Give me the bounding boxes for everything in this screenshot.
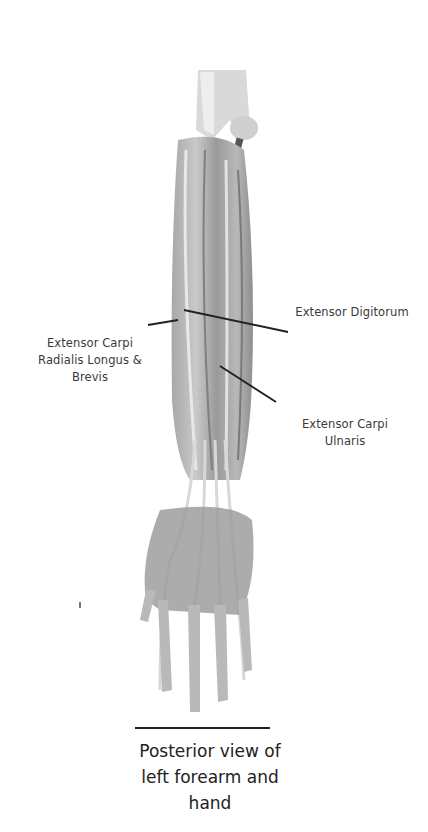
caption-line: hand	[110, 790, 310, 816]
label-extensor-carpi-radialis: Extensor Carpi Radialis Longus & Brevis	[30, 335, 150, 386]
label-line: Extensor Carpi	[30, 335, 150, 352]
label-extensor-digitorum: Extensor Digitorum	[282, 304, 422, 321]
label-line: Ulnaris	[290, 433, 400, 450]
caption-divider	[135, 727, 270, 729]
label-line: Extensor Digitorum	[282, 304, 422, 321]
label-extensor-carpi-ulnaris: Extensor Carpi Ulnaris	[290, 416, 400, 450]
figure-caption: Posterior view of left forearm and hand	[110, 738, 310, 816]
anatomy-figure: Extensor Carpi Radialis Longus & Brevis …	[0, 0, 428, 832]
label-line: Extensor Carpi	[290, 416, 400, 433]
label-line: Brevis	[30, 369, 150, 386]
caption-line: Posterior view of	[110, 738, 310, 764]
caption-line: left forearm and	[110, 764, 310, 790]
label-line: Radialis Longus &	[30, 352, 150, 369]
